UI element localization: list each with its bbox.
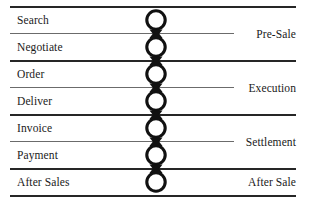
process-flow-diagram: Search Negotiate Order Deliver Invoice P… <box>0 0 310 210</box>
divider-bottom <box>10 195 296 197</box>
node-after-sales <box>147 173 165 191</box>
node-payment <box>147 146 165 164</box>
step-label-deliver: Deliver <box>17 96 52 108</box>
step-label-search: Search <box>17 15 49 27</box>
step-label-order: Order <box>17 69 44 81</box>
divider-execution-settlement <box>10 114 296 116</box>
step-label-payment: Payment <box>17 150 58 162</box>
step-label-negotiate: Negotiate <box>17 42 63 54</box>
node-deliver <box>147 92 165 110</box>
node-negotiate <box>147 38 165 56</box>
divider-search-negotiate <box>10 33 234 34</box>
node-invoice <box>147 119 165 137</box>
step-label-invoice: Invoice <box>17 123 52 135</box>
group-label-pre-sale: Pre-Sale <box>256 29 296 41</box>
divider-order-deliver <box>10 87 234 88</box>
divider-invoice-payment <box>10 141 234 142</box>
divider-settlement-aftersale <box>10 168 296 170</box>
group-label-execution: Execution <box>248 83 296 95</box>
divider-top <box>10 6 296 8</box>
group-label-after-sale: After Sale <box>248 177 296 189</box>
group-label-settlement: Settlement <box>246 137 296 149</box>
step-label-after-sales: After Sales <box>17 177 70 189</box>
node-order <box>147 65 165 83</box>
divider-presale-execution <box>10 60 296 62</box>
node-search <box>147 11 165 29</box>
